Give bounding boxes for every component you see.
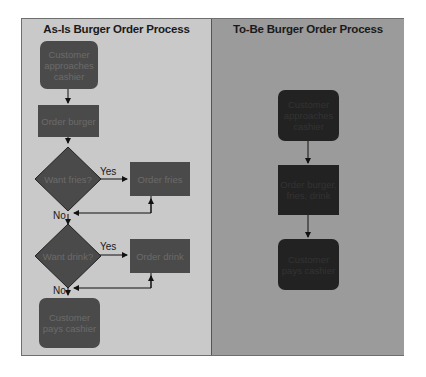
to-be-node-order-all: Order burger, fries, drink (278, 165, 339, 215)
decision-want-drink: Want drink? (35, 224, 101, 288)
node-customer-approaches: Customer approaches cashier (40, 41, 98, 89)
to-be-title: To-Be Burger Order Process (212, 23, 404, 35)
node-customer-pays: Customer pays cashier (39, 298, 100, 348)
as-is-title: As-Is Burger Order Process (22, 23, 211, 35)
to-be-node-customer-approaches: Customer approaches cashier (278, 90, 339, 141)
node-order-fries: Order fries (130, 162, 190, 196)
node-label: Customer approaches cashier (280, 99, 337, 132)
decision-label: Want fries? (35, 147, 101, 211)
as-is-panel: As-Is Burger Order Process (22, 19, 212, 355)
node-order-burger: Order burger (38, 105, 99, 137)
node-label: Customer pays cashier (280, 254, 337, 276)
drink-no-label: No (53, 285, 66, 296)
fries-yes-label: Yes (100, 166, 116, 177)
decision-label: Want drink? (35, 224, 101, 288)
drink-yes-label: Yes (100, 241, 116, 252)
to-be-node-customer-pays: Customer pays cashier (278, 239, 339, 290)
fries-no-label: No (53, 210, 66, 221)
node-order-drink: Order drink (130, 239, 190, 273)
node-label: Order fries (138, 174, 183, 185)
node-label: Order drink (136, 251, 184, 262)
node-label: Customer approaches cashier (42, 49, 96, 82)
to-be-panel: To-Be Burger Order Process Customer appr… (212, 19, 404, 355)
process-comparison-frame: As-Is Burger Order Process (21, 18, 404, 356)
decision-want-fries: Want fries? (35, 147, 101, 211)
node-label: Order burger (41, 116, 95, 127)
node-label: Customer pays cashier (41, 312, 98, 334)
node-label: Order burger, fries, drink (280, 179, 337, 201)
